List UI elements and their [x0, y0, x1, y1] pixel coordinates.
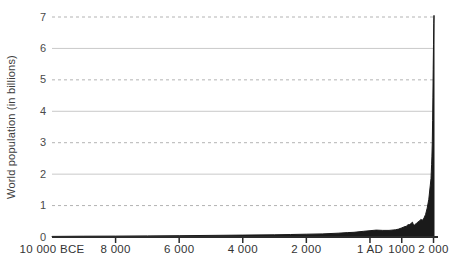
y-tick-label-6: 6 [0, 42, 46, 54]
x-tick-label-2000ad: 2 000 [418, 243, 448, 255]
x-tick-label-10000bce: 10 000 BCE [19, 243, 84, 255]
y-tick-label-3: 3 [0, 136, 46, 148]
y-tick-label-2: 2 [0, 168, 46, 180]
y-tick-label-5: 5 [0, 73, 46, 85]
x-tick-label-1000: 1000 [388, 243, 415, 255]
x-tick-label-2000bce: 2 000 [291, 243, 321, 255]
world-population-chart: World population (in billions) 0 1 2 3 4… [0, 0, 457, 273]
x-tick-label-4000: 4 000 [228, 243, 258, 255]
x-tick-label-8000: 8 000 [100, 243, 130, 255]
y-tick-label-1: 1 [0, 199, 46, 211]
x-tick-label-1ad: 1 AD [357, 243, 383, 255]
x-tick-label-6000: 6 000 [164, 243, 194, 255]
chart-canvas [0, 0, 457, 273]
y-tick-label-4: 4 [0, 105, 46, 117]
y-tick-label-0: 0 [0, 231, 46, 243]
y-tick-label-7: 7 [0, 11, 46, 23]
